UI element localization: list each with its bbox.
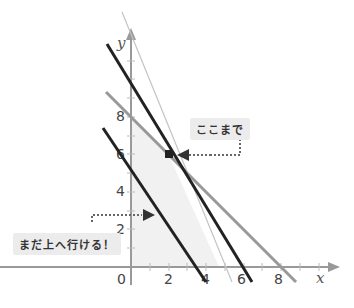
y-tick-label: 4 [116,183,125,199]
x-axis-arrow-icon [328,262,340,272]
callout-optimum-label: ここまで [190,118,250,140]
x-tick-label: 8 [274,271,283,287]
x-axis-name: x [316,269,325,287]
chart-canvas: 0 2 4 6 8 2 4 6 8 x y [0,0,354,308]
optimum-point-marker [165,150,173,158]
origin-label: 0 [117,271,126,287]
y-axis-name: y [116,34,126,52]
x-tick-label: 2 [164,271,173,287]
x-tick-label: 6 [237,271,246,287]
callout-still-up-label: まだ上へ行ける！ [13,233,121,255]
